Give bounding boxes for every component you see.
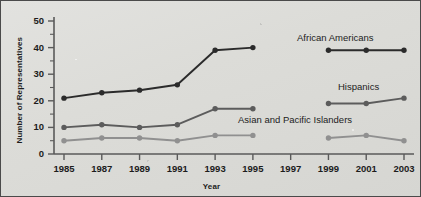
y-axis-tick-label: 30 — [22, 68, 44, 79]
series-points — [61, 45, 406, 144]
y-axis-tick-label: 0 — [22, 148, 44, 159]
y-axis-tick-label: 10 — [22, 121, 44, 132]
x-axis-tick-label: 1993 — [198, 163, 232, 174]
series-label-asian-and-pacific-islanders: Asian and Pacific Islanders — [238, 114, 352, 125]
y-axis-tick-label: 40 — [22, 42, 44, 53]
x-axis-tick-label: 1987 — [85, 163, 119, 174]
y-axis-tick-label: 20 — [22, 95, 44, 106]
series-lines — [64, 48, 404, 141]
x-axis-title: Year — [1, 182, 421, 191]
x-axis-tick-label: 1997 — [274, 163, 308, 174]
x-axis-tick-label: 1995 — [236, 163, 270, 174]
x-axis-tick-label: 1985 — [47, 163, 81, 174]
x-axis-tick-label: 1999 — [311, 163, 345, 174]
x-axis-tick-label: 1989 — [123, 163, 157, 174]
x-axis-tick-label: 1991 — [160, 163, 194, 174]
x-axis-ticks — [64, 154, 404, 160]
series-label-african-americans: African Americans — [297, 32, 374, 43]
chart-figure: Number of Representatives Year 010203040… — [0, 0, 421, 197]
x-axis-tick-label: 2003 — [387, 163, 421, 174]
x-axis-tick-label: 2001 — [349, 163, 383, 174]
series-label-hispanics: Hispanics — [338, 81, 379, 92]
y-axis-tick-label: 50 — [22, 15, 44, 26]
